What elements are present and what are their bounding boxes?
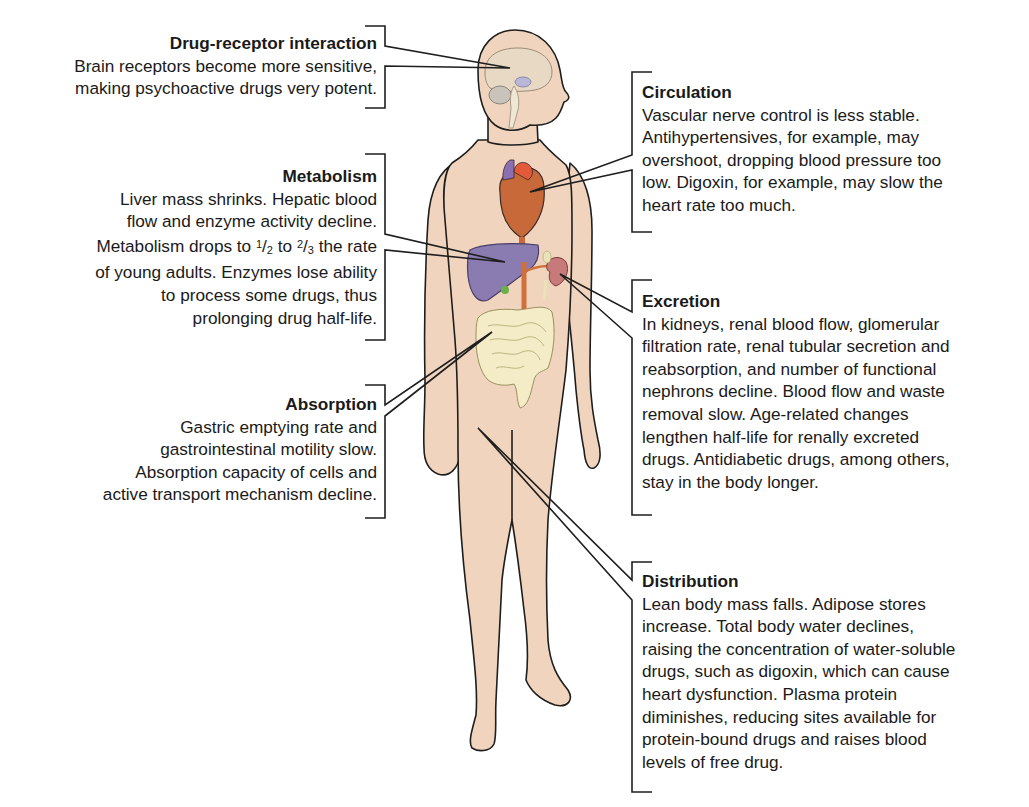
- circulation-line: Vascular nerve control is less stable.: [642, 104, 943, 127]
- excretion-line: reabsorption, and number of functional: [642, 358, 950, 381]
- excretion-line: nephrons decline. Blood flow and waste: [642, 380, 950, 403]
- metabolism-line: prolonging drug half-life.: [95, 307, 377, 330]
- metabolism-line: to process some drugs, thus: [95, 284, 377, 307]
- metabolism-line: Liver mass shrinks. Hepatic blood: [95, 188, 377, 211]
- excretion-line: stay in the body longer.: [642, 471, 950, 494]
- body-figure: [424, 30, 600, 751]
- absorption-line: Absorption capacity of cells and: [103, 461, 377, 484]
- excretion-line: filtration rate, renal tubular secretion…: [642, 335, 950, 358]
- metabolism-line: of young adults. Enzymes lose ability: [95, 261, 377, 284]
- distribution-line: drugs, such as digoxin, which can cause: [642, 660, 955, 683]
- circulation-title: Circulation: [642, 81, 943, 104]
- circulation-line: low. Digoxin, for example, may slow the: [642, 171, 943, 194]
- absorption-line: active transport mechanism decline.: [103, 483, 377, 506]
- metabolism-title: Metabolism: [95, 165, 377, 188]
- fraction-denominator: 2: [267, 244, 273, 256]
- drug-receptor-line: making psychoactive drugs very potent.: [74, 77, 377, 100]
- distribution-line: increase. Total body water declines,: [642, 615, 955, 638]
- label-distribution: Distribution Lean body mass falls. Adipo…: [642, 570, 955, 773]
- circulation-line: Antihypertensives, for example, may: [642, 126, 943, 149]
- metabolism-line-fraction: Metabolism drops to 1/2 to 2/3 the rate: [95, 233, 377, 262]
- excretion-line: drugs. Antidiabetic drugs, among others,: [642, 448, 950, 471]
- metabolism-line: flow and enzyme activity decline.: [95, 210, 377, 233]
- distribution-line: raising the concentration of water-solub…: [642, 638, 955, 661]
- limbic-structure: [515, 77, 531, 87]
- circulation-line: overshoot, dropping blood pressure too: [642, 149, 943, 172]
- metabolism-text: to: [278, 236, 292, 256]
- fraction-denominator: 3: [308, 244, 314, 256]
- ureter: [544, 280, 546, 300]
- label-excretion: Excretion In kidneys, renal blood flow, …: [642, 290, 950, 493]
- gallbladder-illustration: [501, 286, 509, 294]
- distribution-line: protein-bound drugs and raises blood: [642, 728, 955, 751]
- drug-receptor-line: Brain receptors become more sensitive,: [74, 55, 377, 78]
- drug-receptor-title: Drug-receptor interaction: [74, 32, 377, 55]
- circulation-line: heart rate too much.: [642, 194, 943, 217]
- excretion-line: lengthen half-life for renally excreted: [642, 426, 950, 449]
- metabolism-text: the rate: [319, 236, 377, 256]
- label-absorption: Absorption Gastric emptying rate and gas…: [103, 393, 377, 506]
- adrenal-gland: [543, 251, 551, 263]
- absorption-line: Gastric emptying rate and: [103, 416, 377, 439]
- absorption-line: gastrointestinal motility slow.: [103, 438, 377, 461]
- torso: [444, 140, 572, 751]
- excretion-title: Excretion: [642, 290, 950, 313]
- distribution-line: Lean body mass falls. Adipose stores: [642, 593, 955, 616]
- distribution-line: diminishes, reducing sites available for: [642, 706, 955, 729]
- metabolism-text: Metabolism drops to: [96, 236, 251, 256]
- excretion-line: removal slow. Age-related changes: [642, 403, 950, 426]
- cerebellum-illustration: [489, 86, 511, 104]
- label-drug-receptor-interaction: Drug-receptor interaction Brain receptor…: [74, 32, 377, 100]
- distribution-line: levels of free drug.: [642, 751, 955, 774]
- absorption-title: Absorption: [103, 393, 377, 416]
- distribution-line: heart dysfunction. Plasma protein: [642, 683, 955, 706]
- label-metabolism: Metabolism Liver mass shrinks. Hepatic b…: [95, 165, 377, 329]
- distribution-title: Distribution: [642, 570, 955, 593]
- excretion-line: In kidneys, renal blood flow, glomerular: [642, 313, 950, 336]
- label-circulation: Circulation Vascular nerve control is le…: [642, 81, 943, 217]
